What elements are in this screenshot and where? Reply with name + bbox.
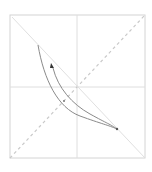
inner-curve (53, 68, 117, 129)
diagram-canvas (0, 0, 152, 172)
end-point-marker (116, 128, 118, 130)
marker-dot (63, 100, 65, 102)
curve-diagram (0, 0, 152, 172)
arrowhead-icon (50, 63, 54, 68)
